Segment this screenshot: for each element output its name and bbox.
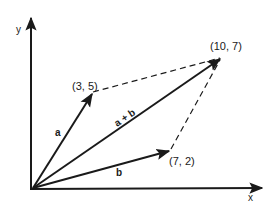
vector-label-a: a (55, 127, 61, 138)
point-label-sum: (10, 7) (210, 40, 242, 52)
point-label-a: (3, 5) (72, 80, 98, 92)
vector-label-b: b (116, 167, 122, 178)
diagram-svg: y x (3, 5) (10, 7) (7, 2) a a + b b (0, 0, 278, 212)
vector-a-plus-b (33, 59, 220, 188)
point-label-b: (7, 2) (169, 155, 195, 167)
x-axis-label: x (248, 192, 253, 203)
y-axis-label: y (16, 24, 21, 35)
x-axis (31, 188, 262, 189)
vector-addition-diagram: y x (3, 5) (10, 7) (7, 2) a a + b b (0, 0, 278, 212)
dashed-line-b-to-sum (171, 60, 220, 149)
dashed-line-a-to-sum (93, 58, 220, 92)
